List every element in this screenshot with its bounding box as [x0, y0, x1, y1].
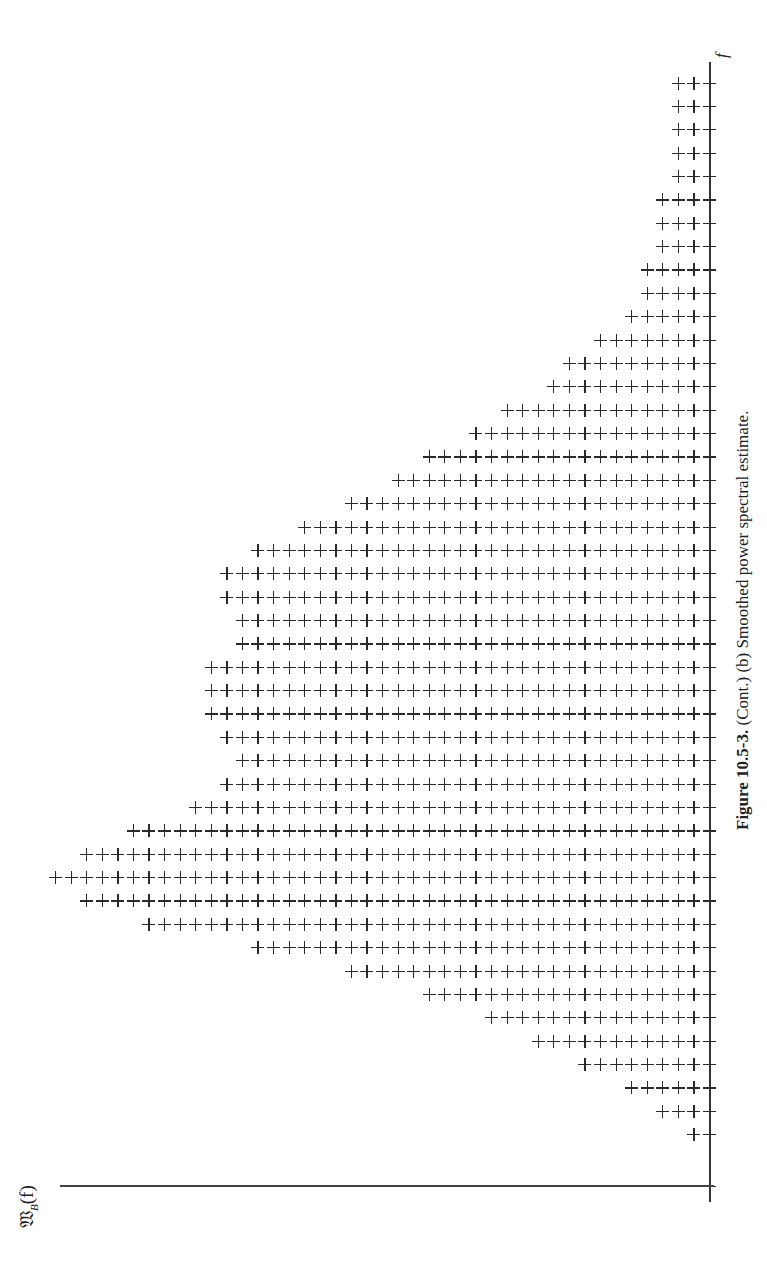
plus-mark-icon [610, 357, 623, 370]
plus-mark-icon [360, 707, 373, 720]
plus-mark-icon [438, 731, 451, 744]
plus-mark-icon [454, 661, 467, 674]
plus-mark-icon [610, 941, 623, 954]
plus-mark-icon [329, 918, 342, 931]
plus-mark-icon [641, 965, 654, 978]
plus-mark-icon [672, 1011, 685, 1024]
plus-mark-icon [469, 754, 482, 767]
plus-mark-icon [672, 1058, 685, 1071]
plus-mark-icon [345, 614, 358, 627]
plus-mark-icon [376, 778, 389, 791]
plus-mark-icon [672, 824, 685, 837]
plus-mark-icon [189, 894, 202, 907]
plus-mark-icon [625, 848, 638, 861]
plus-mark-icon [578, 754, 591, 767]
plus-mark-icon [532, 965, 545, 978]
plus-mark-icon [423, 965, 436, 978]
plus-mark-icon [687, 1058, 700, 1071]
plus-mark-icon [687, 824, 700, 837]
plus-mark-icon [625, 357, 638, 370]
plus-mark-icon [563, 404, 576, 417]
plus-mark-icon [220, 801, 233, 814]
plus-mark-icon [501, 848, 514, 861]
plus-mark-icon [672, 544, 685, 557]
plus-mark-icon [641, 684, 654, 697]
plus-mark-icon [454, 824, 467, 837]
plus-mark-icon [625, 988, 638, 1001]
plus-mark-icon [594, 871, 607, 884]
plus-mark-icon [469, 661, 482, 674]
plus-mark-icon [594, 801, 607, 814]
plus-mark-icon [360, 871, 373, 884]
plus-mark-icon [641, 1058, 654, 1071]
plus-mark-icon [469, 474, 482, 487]
plus-mark-icon [283, 894, 296, 907]
plus-mark-icon [189, 918, 202, 931]
plus-mark-icon [314, 661, 327, 674]
plus-mark-icon [174, 894, 187, 907]
plus-mark-icon [516, 544, 529, 557]
plus-mark-icon [469, 988, 482, 1001]
plus-mark-icon [423, 591, 436, 604]
plus-mark-icon [485, 871, 498, 884]
plus-mark-icon [532, 474, 545, 487]
plus-mark-icon [407, 521, 420, 534]
plus-mark-icon [563, 567, 576, 580]
plus-mark-icon [501, 684, 514, 697]
plus-mark-icon [594, 824, 607, 837]
plus-mark-icon [298, 824, 311, 837]
plus-mark-icon [687, 1035, 700, 1048]
plus-mark-icon [578, 1011, 591, 1024]
plus-mark-icon [469, 684, 482, 697]
plus-mark-icon [329, 778, 342, 791]
plus-mark-icon [625, 380, 638, 393]
plus-mark-icon [501, 707, 514, 720]
plus-mark-icon [283, 684, 296, 697]
plus-mark-icon [687, 894, 700, 907]
plus-mark-icon [392, 824, 405, 837]
plus-mark-icon [578, 450, 591, 463]
plus-mark-icon [625, 334, 638, 347]
plus-mark-icon [687, 404, 700, 417]
plus-mark-icon [610, 427, 623, 440]
plus-mark-icon [516, 731, 529, 744]
plus-mark-icon [516, 450, 529, 463]
plus-mark-icon [547, 988, 560, 1001]
plus-mark-icon [501, 474, 514, 487]
plus-mark-icon [516, 474, 529, 487]
w-axis-label: 𝔚B(f) [16, 1185, 40, 1228]
plus-mark-icon [189, 824, 202, 837]
plus-mark-icon [656, 427, 669, 440]
plus-mark-icon [360, 567, 373, 580]
plus-mark-icon [392, 801, 405, 814]
plus-mark-icon [267, 637, 280, 650]
plus-mark-icon [345, 591, 358, 604]
plus-mark-icon [251, 918, 264, 931]
plus-mark-icon [392, 521, 405, 534]
plus-mark-icon [594, 334, 607, 347]
plus-mark-icon [205, 661, 218, 674]
plus-mark-icon [438, 497, 451, 510]
plus-mark-icon [578, 357, 591, 370]
plus-mark-icon [501, 450, 514, 463]
plus-mark-icon [423, 521, 436, 534]
plus-mark-icon [251, 684, 264, 697]
plus-mark-icon [454, 801, 467, 814]
plus-mark-icon [376, 614, 389, 627]
plus-mark-icon [298, 684, 311, 697]
plus-mark-icon [345, 754, 358, 767]
plus-mark-icon [469, 871, 482, 884]
plus-mark-icon [625, 637, 638, 650]
plus-mark-icon [283, 707, 296, 720]
plus-mark-icon [485, 661, 498, 674]
plus-mark-icon [298, 731, 311, 744]
plus-mark-icon [594, 591, 607, 604]
plus-mark-icon [469, 614, 482, 627]
plus-mark-icon [672, 637, 685, 650]
plus-mark-icon [438, 614, 451, 627]
plus-mark-icon [594, 778, 607, 791]
plus-mark-icon [563, 427, 576, 440]
plus-mark-icon [501, 941, 514, 954]
plus-mark-icon [501, 894, 514, 907]
plus-mark-icon [205, 918, 218, 931]
